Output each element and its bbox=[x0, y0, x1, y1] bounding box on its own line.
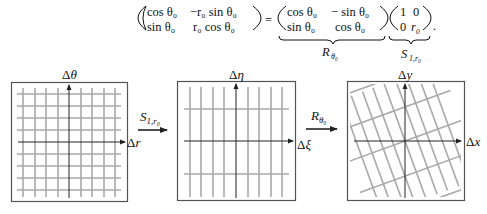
lhs-r1c2: −r₀ sin θ₀ bbox=[190, 5, 237, 19]
polar-y-axis-label: Δθ bbox=[62, 68, 77, 81]
lhs-matrix: cos θ₀ −r₀ sin θ₀ sin θ₀ r₀ cos θ₀ bbox=[138, 5, 261, 34]
scale-r1c2: 0 bbox=[413, 5, 419, 19]
scale-underbrace-sub: 1,r₀ bbox=[409, 54, 421, 63]
rotated-x-axis-label: Δx bbox=[466, 135, 480, 148]
equals-sign: = bbox=[265, 13, 272, 27]
scale-r1c1: 1 bbox=[400, 5, 406, 19]
panel-frame bbox=[178, 82, 296, 201]
arrow-rotation-label: Rθ₀ bbox=[311, 109, 327, 122]
equation-period: . bbox=[433, 19, 436, 33]
panel-frame bbox=[12, 83, 128, 202]
scaled-x-axis-label: Δξ bbox=[297, 138, 311, 151]
panel-frame bbox=[348, 82, 465, 201]
scale-underbrace-label: S bbox=[401, 47, 408, 61]
grid-lines bbox=[184, 87, 289, 197]
rotation-underbrace-label: R bbox=[321, 45, 330, 59]
rot-r1c2: − sin θ₀ bbox=[331, 5, 369, 19]
panel-rotated-grid bbox=[327, 60, 484, 214]
panel-scaled-grid bbox=[178, 82, 296, 201]
lhs-r1c1: cos θ₀ bbox=[147, 5, 177, 19]
grid-lines bbox=[17, 88, 121, 197]
grid-lines bbox=[327, 60, 484, 214]
panel-polar-grid bbox=[12, 83, 128, 202]
rotated-y-axis-label: Δy bbox=[398, 68, 412, 81]
lhs-r2c1: sin θ₀ bbox=[147, 20, 175, 34]
rotation-matrix: cos θ₀ − sin θ₀ sin θ₀ cos θ₀ R θ₀ bbox=[278, 5, 388, 61]
rotation-underbrace-sub: θ₀ bbox=[331, 52, 338, 61]
rot-r1c1: cos θ₀ bbox=[287, 5, 317, 19]
arrow-scale-label: S1,r₀ bbox=[140, 110, 160, 123]
scale-matrix: 1 0 0 r₀ . S 1,r₀ bbox=[389, 5, 436, 63]
scaled-y-axis-label: Δη bbox=[229, 68, 244, 81]
lhs-r2c2: r₀ cos θ₀ bbox=[193, 20, 235, 34]
rot-r2c2: cos θ₀ bbox=[335, 20, 365, 34]
polar-x-axis-label: Δr bbox=[127, 136, 140, 149]
equation: cos θ₀ −r₀ sin θ₀ sin θ₀ r₀ cos θ₀ = cos… bbox=[0, 0, 487, 70]
scale-r2c1: 0 bbox=[400, 20, 406, 34]
scale-r2c2: r₀ bbox=[411, 20, 420, 34]
rot-r2c1: sin θ₀ bbox=[287, 20, 315, 34]
